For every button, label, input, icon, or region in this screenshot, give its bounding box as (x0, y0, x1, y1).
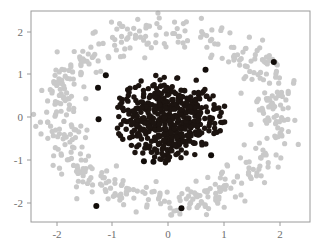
scatter-plot-figure: -2-1012 -2-1012 (0, 0, 322, 251)
data-point (217, 114, 222, 119)
data-point (185, 115, 190, 120)
data-point (84, 128, 89, 133)
data-point (239, 181, 244, 186)
data-point (70, 144, 75, 149)
data-point (175, 75, 180, 80)
data-point (255, 48, 260, 53)
data-point (260, 37, 265, 42)
data-point (185, 38, 190, 43)
data-point (231, 57, 236, 62)
data-point (206, 128, 211, 133)
data-point (61, 83, 66, 88)
y-tick-label: 2 (18, 26, 24, 38)
data-point (57, 69, 62, 74)
data-point (71, 163, 76, 168)
data-point (63, 98, 68, 103)
data-point (136, 83, 141, 88)
data-point (156, 196, 161, 201)
data-point (296, 142, 301, 147)
data-point (196, 128, 201, 133)
data-point (93, 203, 99, 209)
data-point (78, 151, 83, 156)
data-point (141, 88, 146, 93)
data-point (253, 146, 258, 151)
data-point (225, 163, 230, 168)
x-tick-label: 0 (165, 228, 171, 240)
data-point (117, 95, 122, 100)
data-point (124, 191, 129, 196)
data-point (204, 93, 209, 98)
data-point (257, 140, 262, 145)
data-point (204, 212, 209, 217)
data-point (219, 171, 224, 176)
data-point (282, 141, 287, 146)
data-point (157, 156, 162, 161)
data-point (87, 178, 92, 183)
data-point (173, 142, 178, 147)
y-tick-label: 0 (18, 111, 24, 123)
data-point (119, 34, 124, 39)
data-point (125, 98, 130, 103)
data-point (162, 115, 167, 120)
data-point (69, 150, 74, 155)
data-point (154, 32, 159, 37)
data-point (109, 19, 114, 24)
data-point (188, 105, 193, 110)
data-point (61, 119, 66, 124)
data-point (101, 175, 106, 180)
data-point (90, 55, 95, 60)
data-point (80, 49, 85, 54)
x-tick-label: -1 (107, 228, 116, 240)
data-point (69, 94, 74, 99)
data-point (259, 173, 264, 178)
data-point (146, 86, 151, 91)
data-point (166, 200, 171, 205)
data-point (222, 104, 227, 109)
data-point (164, 157, 169, 162)
data-point (119, 40, 124, 45)
data-point (156, 134, 161, 139)
data-point (157, 15, 162, 20)
data-point (114, 26, 119, 31)
data-point (72, 127, 77, 132)
data-point (141, 94, 146, 99)
data-point (90, 166, 95, 171)
data-point (173, 91, 178, 96)
data-point (211, 102, 216, 107)
x-tick-label: 2 (277, 228, 283, 240)
data-point (276, 164, 281, 169)
data-point (153, 73, 158, 78)
data-point (72, 49, 77, 54)
data-point (204, 188, 209, 193)
data-point (196, 90, 201, 95)
data-point (202, 116, 207, 121)
data-point (165, 92, 170, 97)
data-point (157, 77, 162, 82)
data-point (195, 118, 200, 123)
data-point (141, 115, 146, 120)
data-point (106, 196, 111, 201)
data-point (125, 107, 130, 112)
data-point (210, 93, 215, 98)
data-point (192, 152, 197, 157)
data-point (141, 38, 146, 43)
data-point (177, 34, 182, 39)
data-point (129, 143, 134, 148)
data-point (273, 75, 278, 80)
data-point (86, 153, 91, 158)
data-point (130, 134, 135, 139)
data-point (69, 156, 74, 161)
data-point (176, 39, 181, 44)
data-point (276, 81, 281, 86)
data-point (192, 190, 197, 195)
data-point (96, 58, 101, 63)
data-point (170, 84, 175, 89)
data-point (106, 54, 111, 59)
data-point (252, 56, 257, 61)
data-point (75, 169, 80, 174)
data-point (161, 143, 166, 148)
data-point (218, 175, 223, 180)
data-point (215, 201, 220, 206)
data-point (161, 132, 166, 137)
plot-canvas: -2-1012 -2-1012 (0, 0, 322, 251)
